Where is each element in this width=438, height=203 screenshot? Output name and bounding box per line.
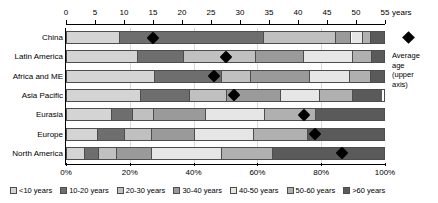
bar-segment[interactable] bbox=[117, 147, 152, 160]
legend-swatch-icon bbox=[173, 187, 180, 194]
top-axis-tick-label: 45 bbox=[323, 8, 332, 18]
bar-segment[interactable] bbox=[363, 31, 371, 44]
bottom-axis-percent: 0%20%40%60%80%100% bbox=[66, 166, 385, 180]
top-axis-tick-label: 25 bbox=[207, 8, 216, 18]
average-age-annotation: Average age (upper axis) bbox=[392, 30, 438, 89]
bar-row[interactable] bbox=[66, 128, 385, 141]
top-axis-tick-label: 55 bbox=[381, 8, 390, 18]
bar-segment[interactable] bbox=[320, 89, 353, 102]
top-axis-tick-label: 35 bbox=[265, 8, 274, 18]
legend-swatch-icon bbox=[230, 187, 237, 194]
legend-label: 50-60 years bbox=[296, 186, 336, 195]
legend-item[interactable]: 10-20 years bbox=[60, 186, 109, 195]
legend-item[interactable]: 50-60 years bbox=[287, 186, 336, 195]
bar-segment[interactable] bbox=[353, 89, 382, 102]
bar-segment[interactable] bbox=[352, 31, 363, 44]
legend-item[interactable]: <10 years bbox=[10, 186, 52, 195]
legend-label: 30-40 years bbox=[182, 186, 222, 195]
bar-segment[interactable] bbox=[350, 70, 371, 83]
legend-item[interactable]: 40-50 years bbox=[230, 186, 279, 195]
bottom-axis-tick bbox=[257, 163, 258, 166]
bar-segment[interactable] bbox=[98, 128, 125, 141]
bar-segment[interactable] bbox=[254, 128, 308, 141]
bottom-axis-tick-label: 80% bbox=[313, 168, 329, 178]
legend-label: 40-50 years bbox=[239, 186, 279, 195]
plot-area bbox=[66, 28, 385, 164]
legend-item[interactable]: >60 years bbox=[343, 186, 385, 195]
category-label: China bbox=[0, 33, 63, 42]
bar-segment[interactable] bbox=[222, 70, 251, 83]
bar-segment[interactable] bbox=[371, 31, 385, 44]
top-axis-years: 0510152025303540455055 bbox=[66, 8, 385, 28]
bottom-axis-line bbox=[66, 164, 386, 165]
average-age-diamond-icon bbox=[402, 31, 415, 44]
top-axis-label: years bbox=[392, 8, 412, 17]
category-label: Africa and ME bbox=[0, 72, 63, 81]
bar-segment[interactable] bbox=[336, 31, 352, 44]
bar-segment[interactable] bbox=[112, 108, 133, 121]
bottom-axis-tick-label: 40% bbox=[186, 168, 202, 178]
category-label: Europe bbox=[0, 130, 63, 139]
bar-segment[interactable] bbox=[256, 50, 304, 63]
category-label: Latin America bbox=[0, 52, 63, 61]
legend-item[interactable]: 30-40 years bbox=[173, 186, 222, 195]
bar-row[interactable] bbox=[66, 89, 385, 102]
bar-segment[interactable] bbox=[99, 147, 117, 160]
bar-row[interactable] bbox=[66, 31, 385, 44]
bar-segment[interactable] bbox=[190, 89, 227, 102]
legend-swatch-icon bbox=[10, 187, 17, 194]
legend-swatch-icon bbox=[343, 187, 350, 194]
legend-label: >60 years bbox=[352, 186, 385, 195]
bar-segment[interactable] bbox=[152, 128, 195, 141]
bar-segment[interactable] bbox=[371, 70, 385, 83]
bar-segment[interactable] bbox=[66, 147, 85, 160]
bar-segment[interactable] bbox=[138, 50, 184, 63]
bottom-axis-tick bbox=[66, 163, 67, 166]
legend-item[interactable]: 20-30 years bbox=[117, 186, 166, 195]
bar-segment[interactable] bbox=[66, 31, 120, 44]
bar-row[interactable] bbox=[66, 108, 385, 121]
legend-label: 20-30 years bbox=[126, 186, 166, 195]
bar-segment[interactable] bbox=[66, 89, 141, 102]
bar-segment[interactable] bbox=[66, 70, 155, 83]
bottom-axis-tick-label: 100% bbox=[375, 168, 395, 178]
bar-segment[interactable] bbox=[154, 108, 207, 121]
bottom-axis-tick-label: 20% bbox=[122, 168, 138, 178]
category-label: Eurasia bbox=[0, 110, 63, 119]
bar-segment[interactable] bbox=[206, 108, 265, 121]
bottom-axis-tick bbox=[321, 163, 322, 166]
bar-segment[interactable] bbox=[141, 89, 190, 102]
bar-segment[interactable] bbox=[353, 50, 372, 63]
bar-segment[interactable] bbox=[310, 70, 350, 83]
annotation-line-3: (upper bbox=[392, 70, 438, 80]
bar-segment[interactable] bbox=[125, 128, 152, 141]
bar-segment[interactable] bbox=[85, 147, 99, 160]
bar-segment[interactable] bbox=[152, 147, 222, 160]
bar-segment[interactable] bbox=[316, 108, 385, 121]
bar-segment[interactable] bbox=[66, 128, 98, 141]
bar-segment[interactable] bbox=[66, 50, 138, 63]
top-axis-tick bbox=[385, 20, 386, 24]
bar-segment[interactable] bbox=[251, 70, 310, 83]
bar-row[interactable] bbox=[66, 147, 385, 160]
bar-segment[interactable] bbox=[222, 147, 273, 160]
legend-label: 10-20 years bbox=[69, 186, 109, 195]
bar-segment[interactable] bbox=[66, 108, 112, 121]
bar-segment[interactable] bbox=[372, 50, 385, 63]
bottom-axis-tick bbox=[385, 163, 386, 166]
legend: <10 years10-20 years20-30 years30-40 yea… bbox=[10, 183, 434, 197]
bottom-axis-tick-label: 60% bbox=[249, 168, 265, 178]
bar-segment[interactable] bbox=[120, 31, 264, 44]
bar-segment[interactable] bbox=[304, 50, 353, 63]
bar-row[interactable] bbox=[66, 50, 385, 63]
bar-segment[interactable] bbox=[273, 147, 385, 160]
bar-segment[interactable] bbox=[281, 89, 319, 102]
bar-segment[interactable] bbox=[133, 108, 154, 121]
bar-segment[interactable] bbox=[195, 128, 254, 141]
bar-segment[interactable] bbox=[264, 31, 336, 44]
legend-swatch-icon bbox=[60, 187, 67, 194]
annotation-line-2: age bbox=[392, 61, 438, 71]
bar-row[interactable] bbox=[66, 70, 385, 83]
annotation-line-1: Average bbox=[392, 51, 438, 61]
top-axis-line bbox=[66, 24, 385, 25]
